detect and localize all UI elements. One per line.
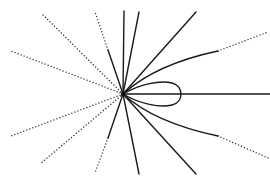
- phase-portrait-diagram: [0, 0, 270, 181]
- ray-left-lower: [11, 94, 123, 136]
- ray-up-vertical: [123, 11, 124, 94]
- curve-lower-right-dotted: [218, 136, 268, 158]
- ray-up-left: [41, 13, 123, 94]
- solid-rays: [123, 11, 270, 174]
- ray-up-left-steep-dotted: [95, 12, 108, 50]
- ray-down-right-steep: [123, 94, 139, 174]
- curve-upper-right-dotted: [218, 32, 268, 51]
- ray-up-right-steep: [123, 12, 139, 94]
- singular-point: [121, 92, 125, 96]
- mixed-rays: [95, 12, 123, 173]
- dotted-rays: [11, 13, 123, 164]
- ray-left-upper: [11, 51, 123, 94]
- curved-separatrices: [123, 32, 268, 158]
- ray-down-left-steep-dotted: [95, 138, 108, 173]
